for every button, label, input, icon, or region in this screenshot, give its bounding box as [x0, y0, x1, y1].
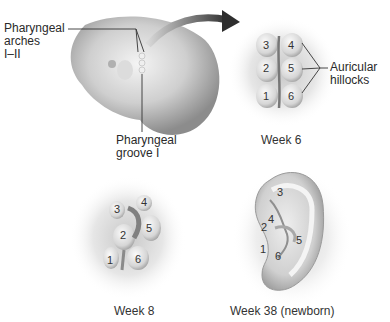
- week8-caption: Week 8: [114, 304, 154, 318]
- pharyngeal-groove-label: Pharyngeal groove I: [116, 134, 177, 160]
- week6-hillock-3: 3: [263, 39, 269, 51]
- week38-hillock-3: 3: [277, 186, 283, 198]
- week8-hillock-4: 4: [141, 196, 147, 208]
- week38-hillock-4: 4: [268, 213, 274, 225]
- week8-illustration: [70, 176, 186, 300]
- week6-hillock-2: 2: [263, 62, 269, 74]
- week6-illustration: [228, 17, 338, 127]
- embryo-illustration: [71, 17, 220, 135]
- week38-hillock-2: 2: [261, 221, 267, 233]
- hillocks-label-line2: hillocks: [330, 74, 377, 87]
- week6-hillock-6: 6: [288, 90, 294, 102]
- week6-hillock-5: 5: [288, 62, 294, 74]
- auricular-hillocks-label: Auricular hillocks: [330, 61, 377, 87]
- week8-hillock-1: 1: [107, 254, 113, 266]
- week8-hillock-2: 2: [120, 229, 126, 241]
- week8-hillock-5: 5: [146, 222, 152, 234]
- arches-label-line3: I–II: [4, 48, 65, 61]
- week8-hillock-6: 6: [135, 253, 141, 265]
- week6-hillock-1: 1: [263, 90, 269, 102]
- week38-hillock-5: 5: [296, 234, 302, 246]
- week38-hillock-6: 6: [275, 250, 281, 262]
- groove-label-line2: groove I: [116, 147, 177, 160]
- week6-caption: Week 6: [261, 133, 301, 147]
- week38-caption: Week 38 (newborn): [230, 304, 335, 318]
- week6-hillock-4: 4: [288, 39, 294, 51]
- week38-hillock-1: 1: [260, 243, 266, 255]
- week38-ear-illustration: [232, 168, 352, 308]
- pharyngeal-arches-label: Pharyngeal arches I–II: [4, 22, 65, 61]
- week8-hillock-3: 3: [114, 203, 120, 215]
